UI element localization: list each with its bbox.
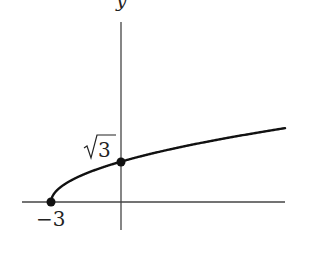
graph: y −3 3 <box>0 0 311 253</box>
sqrt-curve <box>51 128 285 202</box>
y-intercept-point <box>117 158 126 167</box>
x-intercept-point <box>47 198 56 207</box>
y-intercept-label: 3 <box>84 135 116 162</box>
svg-text:3: 3 <box>98 138 111 162</box>
x-intercept-label: −3 <box>36 207 65 231</box>
y-axis-label: y <box>115 0 127 11</box>
